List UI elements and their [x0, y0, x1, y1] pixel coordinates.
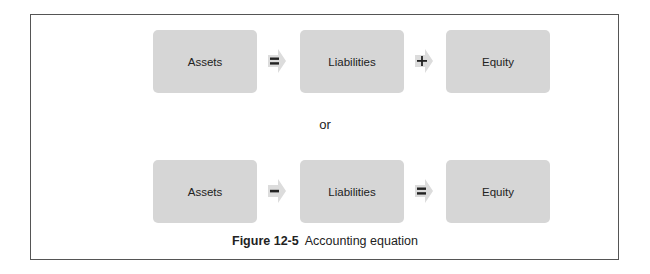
equals-arrow-icon — [415, 179, 433, 203]
figure-title: Accounting equation — [305, 234, 418, 248]
or-separator: or — [0, 117, 650, 132]
figure-caption: Figure 12-5Accounting equation — [0, 234, 650, 248]
term-box-assets: Assets — [153, 160, 257, 223]
plus-arrow-icon — [415, 49, 433, 73]
figure-number: Figure 12-5 — [232, 234, 299, 248]
term-label: Equity — [482, 186, 514, 198]
term-box-assets: Assets — [153, 30, 257, 93]
term-box-equity: Equity — [446, 160, 550, 223]
term-box-liabilities: Liabilities — [300, 30, 404, 93]
term-label: Liabilities — [328, 56, 375, 68]
equals-arrow-icon — [268, 49, 286, 73]
term-label: Equity — [482, 56, 514, 68]
term-box-equity: Equity — [446, 30, 550, 93]
term-label: Assets — [188, 186, 223, 198]
minus-arrow-icon — [268, 179, 286, 203]
term-label: Liabilities — [328, 186, 375, 198]
term-box-liabilities: Liabilities — [300, 160, 404, 223]
term-label: Assets — [188, 56, 223, 68]
